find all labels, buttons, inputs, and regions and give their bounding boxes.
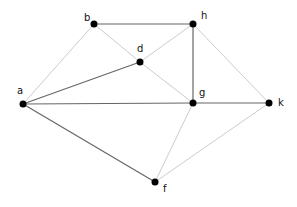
edge-g-f bbox=[155, 103, 193, 182]
node-h bbox=[190, 21, 197, 28]
node-f bbox=[152, 179, 159, 186]
edge-a-b bbox=[23, 24, 94, 104]
node-label-a: a bbox=[17, 86, 23, 96]
node-label-h: h bbox=[201, 11, 207, 21]
node-label-k: k bbox=[278, 98, 284, 108]
node-label-g: g bbox=[199, 88, 205, 98]
edge-a-d bbox=[23, 62, 140, 104]
node-label-d: d bbox=[137, 44, 143, 54]
node-g bbox=[190, 100, 197, 107]
edge-f-k bbox=[155, 103, 269, 182]
edge-a-f bbox=[23, 104, 155, 182]
node-d bbox=[137, 59, 144, 66]
graph-diagram: abhdgkf bbox=[0, 0, 297, 207]
edge-a-g bbox=[23, 103, 193, 104]
node-k bbox=[266, 100, 273, 107]
edge-d-g bbox=[140, 62, 193, 103]
node-label-f: f bbox=[163, 184, 167, 194]
graph-canvas bbox=[0, 0, 297, 207]
node-label-b: b bbox=[84, 13, 90, 23]
edge-d-h bbox=[140, 24, 193, 62]
node-b bbox=[91, 21, 98, 28]
edge-b-d bbox=[94, 24, 140, 62]
node-a bbox=[20, 101, 27, 108]
